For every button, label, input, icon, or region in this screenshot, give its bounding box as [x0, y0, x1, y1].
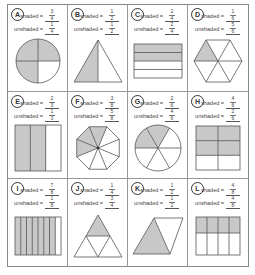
shaded-answer-row: shaded = 26 [140, 96, 179, 109]
rectangle-4-rows-icon [133, 43, 183, 79]
problem-cell-a: A shaded = 34 unshaded = 14 [8, 5, 68, 92]
denominator: 8 [109, 115, 115, 122]
unshaded-label: unshaded = [14, 26, 43, 32]
triangle-halves-shape [68, 35, 127, 87]
unshaded-label: unshaded = [134, 113, 163, 119]
denominator: 6 [230, 115, 236, 122]
circle-sixths-shape [128, 122, 187, 174]
octagon-8-shape [68, 122, 127, 174]
denominator: 6 [169, 115, 175, 122]
denominator: 8 [49, 202, 55, 209]
shaded-label: shaded = [20, 13, 43, 19]
shaded-answer-row: shaded = 78 [20, 183, 59, 196]
unshaded-fraction-blank[interactable]: 12 [165, 196, 179, 209]
shaded-label: shaded = [80, 100, 103, 106]
unshaded-fraction-blank[interactable]: 12 [105, 22, 119, 35]
rectangle-3-columns-shape [8, 122, 67, 174]
denominator: 8 [230, 202, 236, 209]
circle-sixths-icon [134, 124, 182, 172]
rectangle-3-columns-icon [14, 124, 62, 172]
unshaded-fraction-blank[interactable]: 24 [165, 22, 179, 35]
shaded-answer-row: shaded = 12 [140, 183, 179, 196]
shaded-answer-row: shaded = 14 [80, 183, 119, 196]
square-6-grid-icon [195, 125, 241, 171]
circle-quarters-icon [15, 38, 61, 84]
rectangle-8-columns-icon [14, 216, 62, 256]
octagon-8-icon [74, 124, 122, 172]
denominator: 2 [169, 202, 175, 209]
shaded-answer-row: shaded = 38 [80, 96, 119, 109]
unshaded-label: unshaded = [74, 200, 103, 206]
hexagon-6-shape [188, 35, 248, 87]
unshaded-fraction-blank[interactable]: 56 [226, 22, 240, 35]
problem-cell-i: I shaded = 78 unshaded = 18 [8, 179, 68, 266]
problem-cell-f: F shaded = 38 unshaded = 58 [68, 92, 128, 179]
problem-cell-b: B shaded = 12 unshaded = 12 [68, 5, 128, 92]
problem-cell-k: K shaded = 12 unshaded = 12 [128, 179, 188, 266]
shaded-label: shaded = [80, 187, 103, 193]
unshaded-fraction-blank[interactable]: 48 [226, 196, 240, 209]
shaded-label: shaded = [140, 100, 163, 106]
problem-cell-j: J shaded = 14 unshaded = 34 [68, 179, 128, 266]
unshaded-answer-row: unshaded = 34 [74, 196, 119, 209]
shaded-answer-row: shaded = 16 [201, 9, 240, 22]
shaded-label: shaded = [140, 187, 163, 193]
unshaded-label: unshaded = [195, 200, 224, 206]
unshaded-answer-row: unshaded = 56 [195, 22, 240, 35]
rectangle-8-columns-shape [8, 209, 67, 262]
shaded-label: shaded = [201, 13, 224, 19]
unshaded-answer-row: unshaded = 48 [195, 196, 240, 209]
hexagon-6-icon [193, 39, 243, 83]
unshaded-answer-row: unshaded = 13 [14, 109, 59, 122]
triangle-halves-icon [73, 39, 123, 83]
shaded-answer-row: shaded = 23 [20, 96, 59, 109]
circle-quarters-shape [8, 35, 67, 87]
unshaded-label: unshaded = [14, 113, 43, 119]
shaded-label: shaded = [20, 100, 43, 106]
problem-cell-h: H shaded = 46 unshaded = 26 [188, 92, 248, 179]
unshaded-answer-row: unshaded = 18 [14, 196, 59, 209]
triangle-4-icon [73, 214, 123, 258]
shaded-answer-row: shaded = 48 [201, 183, 240, 196]
unshaded-label: unshaded = [195, 26, 224, 32]
rhombus-halves-icon [132, 217, 184, 255]
denominator: 4 [49, 28, 55, 35]
unshaded-answer-row: unshaded = 26 [195, 109, 240, 122]
shaded-label: shaded = [140, 13, 163, 19]
shaded-answer-row: shaded = 24 [140, 9, 179, 22]
unshaded-label: unshaded = [134, 200, 163, 206]
unshaded-fraction-blank[interactable]: 18 [45, 196, 59, 209]
denominator: 6 [230, 28, 236, 35]
unshaded-label: unshaded = [195, 113, 224, 119]
unshaded-fraction-blank[interactable]: 46 [165, 109, 179, 122]
denominator: 2 [109, 28, 115, 35]
worksheet-grid: A shaded = 34 unshaded = 14 B shaded = 1… [7, 4, 249, 267]
unshaded-fraction-blank[interactable]: 13 [45, 109, 59, 122]
unshaded-answer-row: unshaded = 12 [134, 196, 179, 209]
rectangle-4-rows-shape [128, 35, 187, 87]
unshaded-label: unshaded = [74, 113, 103, 119]
unshaded-fraction-blank[interactable]: 34 [105, 196, 119, 209]
unshaded-label: unshaded = [14, 200, 43, 206]
unshaded-answer-row: unshaded = 12 [74, 22, 119, 35]
shaded-label: shaded = [201, 187, 224, 193]
shaded-label: shaded = [80, 13, 103, 19]
shaded-label: shaded = [20, 187, 43, 193]
unshaded-label: unshaded = [74, 26, 103, 32]
unshaded-label: unshaded = [134, 26, 163, 32]
problem-cell-d: D shaded = 16 unshaded = 56 [188, 5, 248, 92]
shaded-answer-row: shaded = 46 [201, 96, 240, 109]
problem-cell-l: L shaded = 48 unshaded = 48 [188, 179, 248, 266]
unshaded-fraction-blank[interactable]: 58 [105, 109, 119, 122]
problem-cell-g: G shaded = 26 unshaded = 46 [128, 92, 188, 179]
unshaded-answer-row: unshaded = 24 [134, 22, 179, 35]
rhombus-halves-shape [128, 209, 187, 262]
unshaded-fraction-blank[interactable]: 14 [45, 22, 59, 35]
unshaded-answer-row: unshaded = 58 [74, 109, 119, 122]
unshaded-answer-row: unshaded = 14 [14, 22, 59, 35]
unshaded-answer-row: unshaded = 46 [134, 109, 179, 122]
unshaded-fraction-blank[interactable]: 26 [226, 109, 240, 122]
shaded-answer-row: shaded = 34 [20, 9, 59, 22]
triangle-4-shape [68, 209, 127, 262]
denominator: 4 [109, 202, 115, 209]
